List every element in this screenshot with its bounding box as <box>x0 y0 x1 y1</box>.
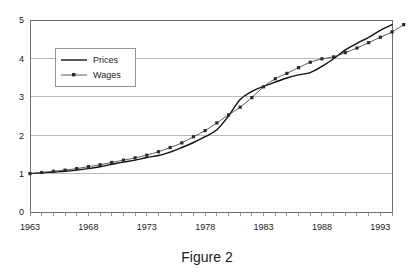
y-tick-label-2: 2 <box>19 131 24 141</box>
data-point-wages <box>274 77 277 80</box>
data-point-wages <box>169 146 172 149</box>
data-point-wages <box>145 154 148 157</box>
data-point-wages <box>98 163 101 166</box>
y-tick-label-3: 3 <box>19 92 24 102</box>
figure-caption: Figure 2 <box>181 249 233 265</box>
x-tick-label-1963: 1963 <box>20 222 40 232</box>
data-point-wages <box>87 165 90 168</box>
chart-background <box>0 0 415 276</box>
legend-label-wages: Wages <box>93 70 121 80</box>
data-point-wages <box>204 129 207 132</box>
data-point-wages <box>227 113 230 116</box>
data-point-wages <box>390 30 393 33</box>
data-point-wages <box>157 150 160 153</box>
data-point-wages <box>75 167 78 170</box>
data-point-wages <box>215 121 218 124</box>
legend-box <box>55 48 135 86</box>
data-point-wages <box>379 36 382 39</box>
data-point-wages <box>320 57 323 60</box>
data-point-wages <box>52 170 55 173</box>
data-point-wages <box>332 55 335 58</box>
y-tick-label-1: 1 <box>19 169 24 179</box>
y-tick-label-4: 4 <box>19 54 24 64</box>
x-tick-label-1983: 1983 <box>254 222 274 232</box>
line-chart: 012345 1963196819731978198319881993 Pric… <box>0 0 415 276</box>
data-point-wages <box>285 72 288 75</box>
data-point-wages <box>122 159 125 162</box>
data-point-wages <box>344 51 347 54</box>
data-point-wages <box>134 156 137 159</box>
data-point-wages <box>192 135 195 138</box>
data-point-wages <box>262 85 265 88</box>
legend-label-prices: Prices <box>93 55 119 65</box>
data-point-wages <box>297 66 300 69</box>
x-tick-label-1978: 1978 <box>195 222 215 232</box>
chart-legend: Prices Wages <box>55 48 135 86</box>
data-point-wages <box>367 41 370 44</box>
figure-container: 012345 1963196819731978198319881993 Pric… <box>0 0 415 276</box>
data-point-wages <box>355 46 358 49</box>
data-point-wages <box>309 61 312 64</box>
data-point-wages <box>402 23 405 26</box>
data-point-wages <box>110 161 113 164</box>
data-point-wages <box>250 96 253 99</box>
x-tick-label-1988: 1988 <box>312 222 332 232</box>
data-point-wages <box>40 171 43 174</box>
data-point-wages <box>180 141 183 144</box>
data-point-wages <box>239 106 242 109</box>
y-tick-label-0: 0 <box>19 207 24 217</box>
y-tick-label-5: 5 <box>19 15 24 25</box>
data-point-wages <box>63 169 66 172</box>
x-tick-label-1968: 1968 <box>78 222 98 232</box>
x-tick-label-1973: 1973 <box>137 222 157 232</box>
x-tick-label-1993: 1993 <box>370 222 390 232</box>
legend-marker-wages-icon <box>72 73 75 76</box>
data-point-wages <box>28 172 31 175</box>
